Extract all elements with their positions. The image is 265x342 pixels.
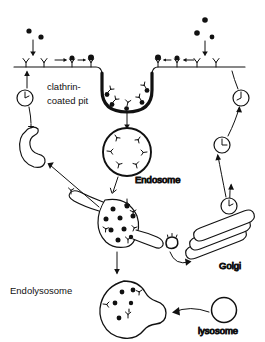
ligand-particle: [116, 238, 121, 243]
ligand-particle: [109, 228, 114, 233]
ligand-particle: [210, 35, 215, 40]
clathrin-coated-pit-label-line2: coated pit: [47, 95, 89, 106]
recycling-vesicle: [17, 90, 33, 106]
ligand-particle: [118, 216, 123, 221]
ligand-particle: [194, 30, 200, 36]
recycling-vesicle: [233, 90, 249, 106]
ligand-particle: [38, 34, 43, 39]
lysosome-label: lysosome: [198, 325, 238, 336]
golgi-label: Golgi: [219, 260, 241, 271]
ligand-particle: [122, 227, 127, 232]
recycling-vesicle: [214, 137, 230, 153]
endolysosome-label: Endolysosome: [10, 285, 72, 296]
recycling-vesicle: [221, 198, 237, 214]
endosome-label: Endosome: [135, 174, 180, 185]
ligand-particle: [26, 28, 31, 33]
endosome: [103, 128, 151, 176]
endocytosis-diagram: Endosome: [0, 0, 265, 342]
ligand-particle: [131, 288, 136, 293]
ligand-particle: [120, 290, 125, 295]
ligand-particle: [104, 217, 109, 222]
ligand-particle: [129, 301, 133, 305]
clathrin-coated-pit-label-line1: clathrin-: [47, 81, 81, 92]
ligand-particle: [117, 316, 122, 321]
lysosome: [212, 298, 237, 323]
ligand-particle: [113, 301, 118, 306]
ligand-particle: [202, 17, 208, 23]
diagram-canvas: Endosome: [0, 0, 265, 342]
ligand-particle: [111, 207, 116, 212]
